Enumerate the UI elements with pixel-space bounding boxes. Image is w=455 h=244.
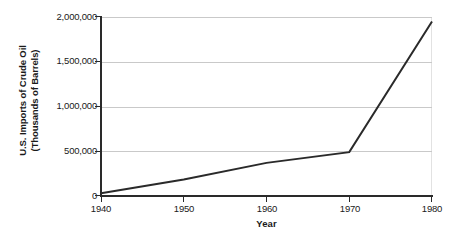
plot-area — [101, 17, 432, 196]
x-tick-label-1970: 1970 — [320, 203, 380, 214]
y-axis-title-line-1: U.S. Imports of Crude Oil — [17, 45, 29, 155]
x-tick-mark-1950 — [183, 196, 184, 202]
x-tick-label-1940: 1940 — [71, 203, 131, 214]
y-tick-label-500000: 500,000 — [39, 146, 97, 156]
y-axis-line — [100, 16, 102, 197]
x-axis-title: Year — [101, 218, 432, 229]
x-tick-mark-1970 — [349, 196, 350, 202]
y-tick-label-1000000: 1,000,000 — [39, 101, 97, 111]
x-tick-label-1980: 1980 — [402, 203, 455, 214]
x-tick-label-1960: 1960 — [237, 203, 297, 214]
x-tick-mark-1960 — [266, 196, 267, 202]
x-tick-mark-1940 — [101, 196, 102, 202]
y-tick-label-1500000: 1,500,000 — [39, 56, 97, 66]
x-tick-mark-1980 — [431, 196, 432, 202]
y-tick-label-0: 0 — [39, 191, 97, 201]
y-tick-label-2000000: 2,000,000 — [39, 12, 97, 22]
x-tick-label-1950: 1950 — [154, 203, 214, 214]
data-series-line — [101, 17, 432, 196]
chart-container: U.S. Imports of Crude Oil (Thousands of … — [0, 0, 455, 244]
